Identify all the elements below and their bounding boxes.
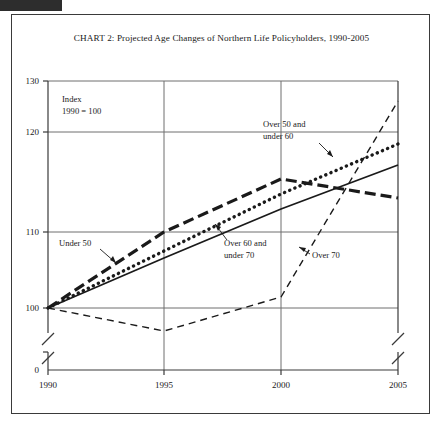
corner-tab bbox=[0, 0, 62, 11]
series-label-over-50-under-60-line2: under 60 bbox=[263, 131, 293, 141]
series-label-over-50-under-60-line1: Over 50 and bbox=[263, 119, 306, 129]
index-note-line1: Index bbox=[62, 94, 82, 104]
y-tick-label-130: 130 bbox=[26, 76, 40, 86]
index-note-line2: 1990 = 100 bbox=[62, 106, 101, 116]
chart-page-frame: CHART 2: Projected Age Changes of Northe… bbox=[11, 14, 430, 414]
series-label-over-60-under-70-line1: Over 60 and bbox=[224, 238, 267, 248]
y-tick-label-0: 0 bbox=[35, 365, 40, 375]
leader-arrow-over-50-under-60 bbox=[327, 150, 333, 157]
y-tick-label-120: 120 bbox=[26, 127, 40, 137]
x-tick-label-1990: 1990 bbox=[39, 380, 58, 390]
leader-arrow-under-50 bbox=[110, 256, 116, 263]
y-tick-label-100: 100 bbox=[26, 303, 40, 313]
chart-plot-area: 130 120 110 100 0 1990 1995 2000 2005 In… bbox=[12, 15, 431, 415]
x-tick-marks bbox=[48, 370, 398, 375]
series-label-over-70: Over 70 bbox=[312, 250, 340, 260]
series-line-under-50 bbox=[48, 179, 398, 308]
series-label-over-60-under-70-line2: under 70 bbox=[224, 250, 254, 260]
x-tick-label-2000: 2000 bbox=[272, 380, 291, 390]
series-line-over-50-under-60 bbox=[48, 144, 398, 308]
y-tick-marks bbox=[43, 81, 48, 352]
y-tick-label-110: 110 bbox=[26, 227, 40, 237]
series-line-over-60-under-70 bbox=[48, 165, 398, 308]
x-tick-label-1995: 1995 bbox=[155, 380, 174, 390]
axis-lines bbox=[48, 81, 398, 370]
series-label-under-50: Under 50 bbox=[59, 238, 91, 248]
series-line-over-70 bbox=[48, 101, 398, 331]
x-tick-label-2005: 2005 bbox=[389, 380, 408, 390]
